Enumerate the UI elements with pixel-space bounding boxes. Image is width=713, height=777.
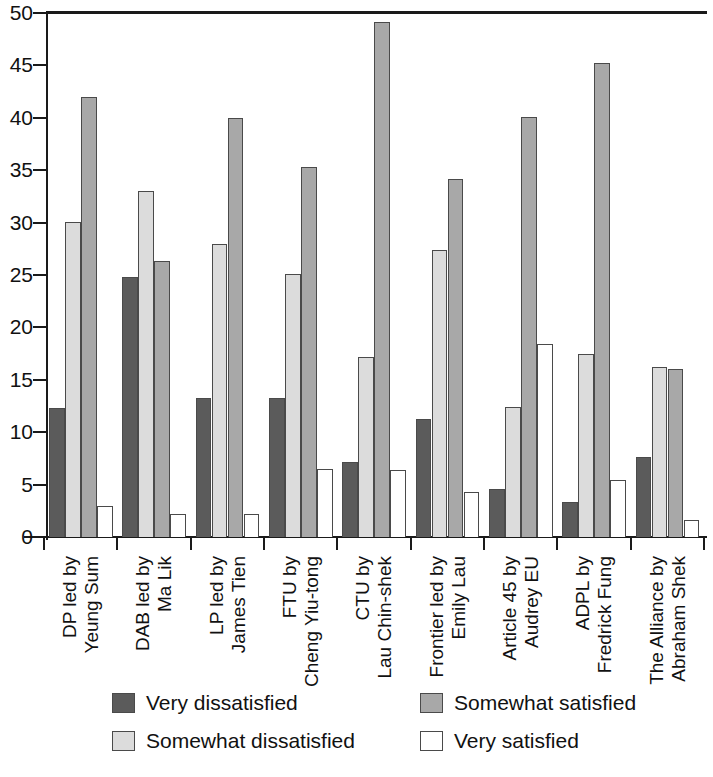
y-axis-tick bbox=[33, 274, 46, 276]
bar bbox=[521, 117, 537, 537]
bar bbox=[196, 398, 212, 537]
legend-swatch bbox=[112, 693, 135, 713]
bar bbox=[610, 480, 626, 537]
legend-swatch bbox=[112, 731, 135, 751]
bar bbox=[285, 274, 301, 537]
y-axis-tick bbox=[33, 484, 46, 486]
x-axis-tick bbox=[190, 538, 192, 550]
bar bbox=[81, 97, 97, 537]
x-axis-tick bbox=[263, 538, 265, 550]
bar bbox=[170, 514, 186, 537]
y-axis-tick-label: 35 bbox=[1, 159, 33, 180]
legend-swatch bbox=[420, 693, 443, 713]
legend-label: Somewhat satisfied bbox=[454, 692, 636, 713]
y-axis-tick-label: 45 bbox=[1, 54, 33, 75]
bar bbox=[636, 457, 652, 537]
bar bbox=[49, 408, 65, 537]
bar bbox=[652, 367, 668, 537]
legend-label: Very dissatisfied bbox=[146, 692, 298, 713]
legend-swatch bbox=[420, 731, 443, 751]
x-axis-category-label: DAB led by Ma Lik bbox=[132, 556, 176, 696]
bar bbox=[374, 22, 390, 537]
bar bbox=[390, 470, 406, 537]
y-axis-tick-label: 15 bbox=[1, 369, 33, 390]
y-axis-tick bbox=[33, 12, 46, 14]
x-axis-tick bbox=[336, 538, 338, 550]
y-axis-tick-label: 0 bbox=[1, 526, 33, 547]
bar bbox=[562, 502, 578, 537]
bar bbox=[432, 250, 448, 537]
legend-item: Very dissatisfied bbox=[112, 692, 298, 713]
bar bbox=[269, 398, 285, 537]
chart-legend: Very dissatisfiedSomewhat satisfiedSomew… bbox=[112, 690, 712, 768]
x-axis-category-label: LP led by James Tien bbox=[206, 556, 250, 696]
x-axis-tick bbox=[630, 538, 632, 550]
y-axis-tick bbox=[33, 222, 46, 224]
x-axis-tick bbox=[116, 538, 118, 550]
y-axis-tick bbox=[33, 326, 46, 328]
legend-item: Somewhat dissatisfied bbox=[112, 730, 355, 751]
x-axis-category-label: Frontier led by Emily Lau bbox=[426, 556, 470, 696]
bar bbox=[448, 179, 464, 537]
x-axis-category-label: FTU by Cheng Yiu-tong bbox=[279, 556, 323, 696]
bar bbox=[228, 118, 244, 537]
bar bbox=[154, 261, 170, 537]
y-axis-tick bbox=[33, 117, 46, 119]
x-axis-category-label: CTU by Lau Chin-shek bbox=[352, 556, 396, 696]
legend-item: Very satisfied bbox=[420, 730, 579, 751]
x-axis-category-label: The Alliance by Abraham Shek bbox=[646, 556, 690, 696]
x-axis-tick bbox=[556, 538, 558, 550]
y-axis-tick bbox=[33, 431, 46, 433]
y-axis-tick bbox=[33, 379, 46, 381]
y-axis-tick-label: 40 bbox=[1, 107, 33, 128]
x-axis-tick bbox=[410, 538, 412, 550]
bar bbox=[537, 344, 553, 537]
y-axis-tick-label: 20 bbox=[1, 316, 33, 337]
y-axis-tick-label: 10 bbox=[1, 421, 33, 442]
bar bbox=[212, 244, 228, 537]
x-axis-category-label: ADPL by Fredrick Fung bbox=[572, 556, 616, 696]
bar bbox=[464, 492, 480, 537]
bar bbox=[301, 167, 317, 537]
bar bbox=[97, 506, 113, 537]
bar bbox=[65, 222, 81, 537]
y-axis-tick bbox=[33, 169, 46, 171]
x-axis-tick bbox=[483, 538, 485, 550]
legend-label: Somewhat dissatisfied bbox=[146, 730, 355, 751]
bar bbox=[594, 63, 610, 537]
y-axis-tick-label: 25 bbox=[1, 264, 33, 285]
legend-item: Somewhat satisfied bbox=[420, 692, 636, 713]
y-axis-tick bbox=[33, 64, 46, 66]
y-axis-labels: 05101520253035404550 bbox=[0, 0, 33, 560]
bar bbox=[578, 354, 594, 537]
x-axis-category-label: Article 45 by Audrey EU bbox=[499, 556, 543, 696]
bar bbox=[342, 462, 358, 537]
legend-label: Very satisfied bbox=[454, 730, 579, 751]
bar bbox=[317, 469, 333, 537]
y-axis-tick-label: 30 bbox=[1, 212, 33, 233]
x-axis-tick bbox=[43, 538, 45, 550]
bar bbox=[122, 277, 138, 537]
y-axis-tick-label: 5 bbox=[1, 474, 33, 495]
plot-area bbox=[46, 13, 706, 537]
bar bbox=[489, 489, 505, 537]
bar bbox=[244, 514, 260, 537]
bar bbox=[358, 357, 374, 537]
x-axis-tick bbox=[703, 538, 705, 550]
y-axis-tick-label: 50 bbox=[1, 2, 33, 23]
bar bbox=[416, 419, 432, 537]
bar bbox=[668, 369, 684, 537]
bar bbox=[505, 407, 521, 537]
bar bbox=[684, 520, 700, 537]
chart-page: 05101520253035404550 DP led by Yeung Sum… bbox=[0, 0, 713, 777]
bar bbox=[138, 191, 154, 537]
x-axis-category-label: DP led by Yeung Sum bbox=[59, 556, 103, 696]
